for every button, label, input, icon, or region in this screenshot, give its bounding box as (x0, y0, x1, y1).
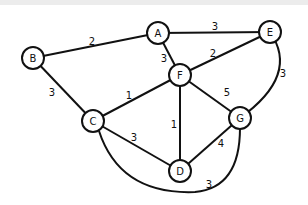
svg-text:B: B (30, 53, 37, 64)
weight-A-E: 3 (212, 21, 218, 32)
svg-text:F: F (177, 70, 183, 81)
node-C: C (82, 110, 104, 132)
edge-A-E (158, 32, 270, 33)
weight-A-F: 3 (161, 53, 167, 64)
edge-C-F (93, 75, 180, 121)
node-D: D (169, 160, 191, 182)
weight-F-E: 2 (210, 48, 216, 59)
svg-text:D: D (176, 166, 184, 177)
edge-E-G (240, 32, 280, 118)
edge-D-G (180, 118, 240, 171)
weight-B-A: 2 (89, 36, 95, 47)
weight-D-G: 4 (218, 138, 224, 149)
node-F: F (169, 64, 191, 86)
edge-F-E (180, 32, 270, 75)
weight-F-G: 5 (224, 87, 230, 98)
svg-text:E: E (267, 27, 273, 38)
weight-C-G: 3 (206, 179, 212, 190)
node-A: A (147, 22, 169, 44)
weight-B-C: 3 (49, 87, 55, 98)
svg-text:C: C (90, 116, 97, 127)
graph-diagram: 2 3 3 2 3 3 1 5 1 3 4 3 A E B F C G D (0, 0, 308, 205)
node-B: B (22, 47, 44, 69)
svg-text:A: A (155, 28, 162, 39)
weight-F-D: 1 (171, 119, 177, 130)
svg-text:G: G (236, 113, 244, 124)
weight-E-G: 3 (280, 68, 286, 79)
edge-B-A (33, 33, 158, 58)
weight-C-F: 1 (126, 90, 132, 101)
weight-C-D: 3 (131, 132, 137, 143)
node-G: G (229, 107, 251, 129)
edge-B-C (33, 58, 93, 121)
node-E: E (259, 21, 281, 43)
